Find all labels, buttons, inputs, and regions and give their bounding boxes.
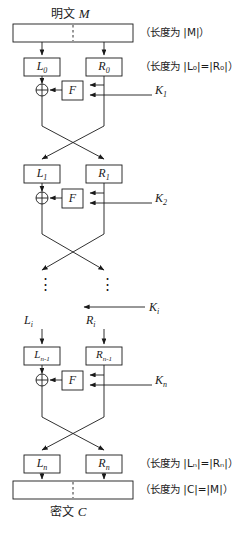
- label-l1: L1: [24, 165, 60, 183]
- label-r-n-minus-1: Rn-1: [86, 347, 122, 365]
- label-k1-base: K: [155, 83, 163, 97]
- label-k2-sub: 2: [163, 198, 167, 207]
- label-ri: Ri: [86, 314, 96, 329]
- label-l0-sub: 0: [43, 66, 47, 75]
- label-r0-base: R: [98, 59, 105, 73]
- label-rn-base: R: [98, 456, 105, 470]
- label-f-roundn-text: F: [69, 373, 76, 388]
- label-lnm1-sub: n-1: [40, 356, 49, 364]
- label-li: Li: [24, 314, 33, 329]
- label-rnm1-sub: n-1: [103, 356, 112, 364]
- label-k1-sub: 1: [163, 90, 167, 99]
- note-length-l0-r0: （长度为 |L₀|=|R₀|）: [140, 61, 238, 72]
- label-ri-sub: i: [93, 320, 95, 329]
- label-kn: Kn: [155, 374, 167, 389]
- ciphertext-caption-text: 密文: [50, 505, 78, 519]
- note-length-ln-rn: （长度为 |Lₙ|=|Rₙ|）: [140, 458, 238, 469]
- plaintext-caption: 明文 M: [51, 7, 90, 20]
- label-k2: K2: [155, 192, 167, 207]
- plaintext-caption-var: M: [79, 6, 90, 21]
- label-li-sub: i: [31, 320, 33, 329]
- vertical-dots-right: ⋮: [100, 277, 115, 292]
- label-l-n-minus-1: Ln-1: [24, 347, 60, 365]
- label-rn: Rn: [86, 455, 122, 473]
- label-f-round2: F: [62, 189, 83, 208]
- feistel-diagram-canvas: 明文 M （长度为 |M|） （长度为 |L₀|=|R₀|） （长度为 |Lₙ|…: [0, 0, 242, 536]
- label-l0: L0: [24, 58, 60, 76]
- label-r0: R0: [86, 58, 122, 76]
- note-length-c: （长度为 |C|=|M|）: [140, 484, 233, 495]
- label-f-round1-text: F: [69, 83, 76, 98]
- label-r1: R1: [86, 165, 122, 183]
- label-f-round2-text: F: [69, 191, 76, 206]
- label-f-round1: F: [62, 81, 83, 100]
- label-ki: Ki: [149, 301, 159, 316]
- label-ln: Ln: [24, 455, 60, 473]
- note-length-m: （长度为 |M|）: [140, 27, 209, 38]
- plaintext-caption-text: 明文: [51, 7, 79, 21]
- label-kn-base: K: [155, 373, 163, 387]
- label-r0-sub: 0: [106, 66, 110, 75]
- label-k1: K1: [155, 84, 167, 99]
- label-ki-base: K: [149, 300, 157, 314]
- label-ln-sub: n: [43, 463, 47, 472]
- label-k2-base: K: [155, 191, 163, 205]
- label-l1-sub: 1: [43, 173, 47, 182]
- ciphertext-caption-var: C: [78, 504, 87, 519]
- label-f-roundn: F: [62, 371, 83, 390]
- label-r1-base: R: [98, 166, 105, 180]
- label-kn-sub: n: [163, 380, 167, 389]
- label-rnm1-base: R: [96, 348, 103, 360]
- label-rn-sub: n: [106, 463, 110, 472]
- ciphertext-caption: 密文 C: [50, 505, 87, 518]
- label-ki-sub: i: [157, 307, 159, 316]
- label-r1-sub: 1: [106, 173, 110, 182]
- label-li-base: L: [24, 313, 31, 327]
- vertical-dots-left: ⋮: [38, 277, 53, 292]
